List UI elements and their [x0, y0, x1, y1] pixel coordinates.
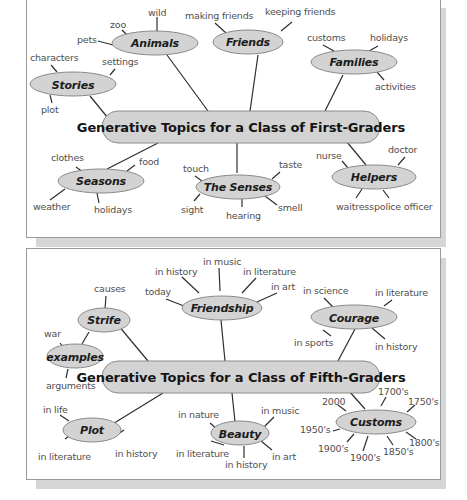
leaf-1900s-b: 1900's: [350, 452, 381, 463]
leaf-in-literature-courage: in literature: [375, 287, 428, 298]
topic-customs: Customs: [350, 416, 402, 429]
leaf-in-history-beauty: in history: [225, 459, 267, 470]
leaf-in-art-beauty: in art: [272, 451, 296, 462]
leaf-in-nature: in nature: [178, 409, 219, 420]
topic-examples: examples: [46, 351, 104, 364]
leaf-weather: weather: [33, 201, 71, 212]
leaf-in-life: in life: [43, 404, 68, 415]
leaf-waitress: waitress: [336, 201, 374, 212]
topic-stories: Stories: [52, 79, 95, 92]
leaf-in-music-friendship: in music: [203, 256, 241, 267]
leaf-doctor: doctor: [388, 144, 417, 155]
leaf-in-literature-plot: in literature: [38, 451, 91, 462]
leaf-zoo: zoo: [110, 19, 126, 30]
leaf-touch: touch: [183, 163, 209, 174]
leaf-customs: customs: [307, 32, 346, 43]
leaf-in-history-courage: in history: [375, 341, 417, 352]
leaf-plot: plot: [41, 104, 58, 115]
topic-animals: Animals: [131, 37, 179, 50]
leaf-in-literature-beauty: in literature: [176, 448, 229, 459]
leaf-war: war: [44, 328, 61, 339]
leaf-nurse: nurse: [316, 150, 342, 161]
leaf-1850s: 1850's: [383, 446, 414, 457]
central-topic-fifth-graders: Generative Topics for a Class of Fifth-G…: [76, 370, 405, 385]
topic-helpers: Helpers: [351, 171, 397, 184]
topic-strife: Strife: [87, 314, 120, 327]
leaf-keeping-friends: keeping friends: [265, 6, 335, 17]
topic-beauty: Beauty: [219, 428, 261, 441]
leaf-in-history-friendship: in history: [155, 266, 197, 277]
leaf-hearing: hearing: [226, 210, 261, 221]
leaf-arguments: arguments: [46, 380, 96, 391]
topic-plot: Plot: [80, 424, 104, 437]
topic-the-senses: The Senses: [204, 181, 272, 194]
leaf-activities: activities: [375, 81, 416, 92]
leaf-holidays: holidays: [370, 32, 408, 43]
leaf-2000: 2000: [322, 396, 345, 407]
leaf-today: today: [145, 286, 171, 297]
leaf-sight: sight: [181, 204, 203, 215]
leaf-holidays-seasons: holidays: [94, 204, 132, 215]
leaf-in-science: in science: [303, 285, 348, 296]
leaf-1950s: 1950's: [300, 424, 331, 435]
leaf-causes: causes: [94, 283, 126, 294]
topic-seasons: Seasons: [76, 175, 126, 188]
topic-friends: Friends: [226, 36, 270, 49]
leaf-food: food: [139, 156, 159, 167]
leaf-in-sports: in sports: [294, 337, 333, 348]
leaf-settings: settings: [102, 56, 138, 67]
leaf-in-literature-friendship: in literature: [243, 266, 296, 277]
leaf-in-art-friendship: in art: [271, 281, 295, 292]
topic-families: Families: [330, 56, 379, 69]
leaf-1750s: 1750's: [408, 396, 439, 407]
leaf-taste: taste: [279, 159, 302, 170]
leaf-police-officer: police officer: [374, 201, 433, 212]
topic-friendship: Friendship: [191, 302, 254, 315]
leaf-in-music-beauty: in music: [261, 405, 299, 416]
leaf-pets: pets: [77, 34, 97, 45]
topic-courage: Courage: [329, 312, 379, 325]
leaf-clothes: clothes: [51, 152, 84, 163]
leaf-wild: wild: [148, 7, 166, 18]
leaf-in-history-plot: in history: [115, 448, 157, 459]
leaf-smell: smell: [278, 202, 302, 213]
leaf-1700s: 1700's: [378, 386, 409, 397]
central-topic-first-graders: Generative Topics for a Class of First-G…: [77, 120, 405, 135]
leaf-making-friends: making friends: [185, 10, 253, 21]
leaf-1900s-a: 1900's: [318, 443, 349, 454]
leaf-characters: characters: [30, 52, 78, 63]
